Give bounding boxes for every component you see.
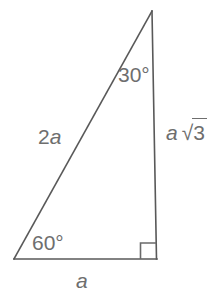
side-label-hypotenuse-coefficient: 2 (38, 125, 50, 148)
side-label-base: a (76, 270, 88, 291)
side-label-vertical: a√3 (166, 122, 206, 143)
side-label-hypotenuse-variable: a (50, 125, 62, 148)
right-angle-marker-icon (141, 243, 157, 259)
angle-label-30: 30° (118, 64, 150, 85)
angle-label-60: 60° (32, 232, 64, 253)
radical-sign-glyph: √ (182, 121, 194, 144)
square-root-icon: √3 (182, 122, 206, 143)
triangle-side-hypotenuse (14, 11, 152, 259)
side-label-base-variable: a (76, 269, 88, 292)
triangle-side-vertical (152, 11, 157, 259)
triangle-drawing (0, 0, 224, 301)
radicand-value: 3 (193, 121, 206, 144)
geometry-figure: 30° 60° 2a a a√3 (0, 0, 224, 301)
side-label-hypotenuse: 2a (38, 126, 61, 147)
side-label-vertical-variable: a (166, 121, 178, 144)
